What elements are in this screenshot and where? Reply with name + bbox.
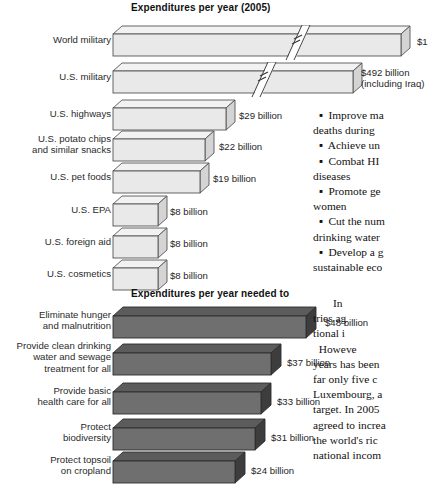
bar-category-label: U.S. military [0,71,111,82]
bar-value-label: $29 billion [239,110,282,121]
bar-category-label: U.S. highways [0,108,111,119]
bar-3d-eliminate-hunger [113,307,323,343]
bar-3d-health-care [113,383,278,419]
bar-3d-foreign-aid [113,228,173,262]
top-chart-title: Expenditures per year (2005) [131,2,271,13]
sidebar-paragraph-text: In tries ag tional i Howeve years has be… [313,296,433,477]
bar-value-label: $8 billion [170,238,208,249]
bar-value-label: $492 billion (including Iraq) [361,67,424,89]
bar-value-label: $19 billion [213,173,256,184]
bar-3d-world-military [113,26,413,60]
bar-value-label: $24 billion [251,465,294,476]
sidebar-bullet-text: ▪ Improve ma deaths during ▪ Achieve un … [313,108,433,280]
bar-3d-us-military [113,63,373,97]
bar-3d-us-highways [113,100,243,134]
bar-3d-clean-water [113,344,288,380]
bar-category-label: U.S. foreign aid [0,236,111,247]
bar-category-label: World military [0,34,111,45]
bar-category-label: U.S. cosmetics [0,268,111,279]
bar-3d-pet-foods [113,163,218,197]
bar-value-label: $1 [417,36,428,47]
bottom-chart-title: Expenditures per year needed to [131,288,289,299]
bar-category-label: Provide basic health care for all [0,385,111,408]
bar-3d-us-epa [113,196,173,230]
bar-category-label: Protect biodiversity [0,421,111,444]
bar-3d-potato-chips [113,131,223,165]
bar-category-label: Provide clean drinking water and sewage … [0,340,111,374]
bar-3d-biodiversity [113,419,273,455]
bar-3d-topsoil [113,452,253,488]
bar-category-label: U.S. potato chips and similar snacks [0,133,111,156]
bar-value-label: $8 billion [170,206,208,217]
bar-category-label: Eliminate hunger and malnutrition [0,309,111,332]
bar-value-label: $22 billion [219,141,262,152]
bar-category-label: U.S. pet foods [0,171,111,182]
bar-value-label: $31 billion [271,432,314,443]
bar-category-label: U.S. EPA [0,204,111,215]
bar-value-label: $8 billion [170,270,208,281]
bar-category-label: Protect topsoil on cropland [0,454,111,477]
